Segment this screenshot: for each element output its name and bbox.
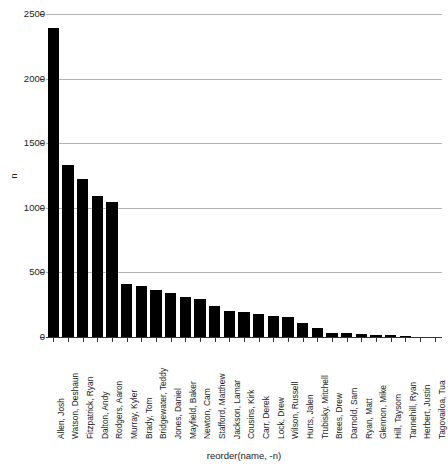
y-tick-mark [40, 14, 44, 15]
x-tick-mark [127, 338, 128, 342]
x-tick-label: Stafford, Matthew [218, 374, 227, 439]
x-axis-title: reorder(name, -n) [46, 450, 442, 461]
x-tick-label: Watson, Deshaun [71, 373, 80, 439]
bar [180, 297, 191, 338]
x-tick-mark [83, 338, 84, 342]
plot-panel [46, 14, 442, 338]
x-tick-label: Jones, Daniel [174, 388, 183, 439]
x-tick-mark [229, 338, 230, 342]
y-tick-mark [40, 337, 44, 338]
x-tick-label: Dalton, Andy [101, 392, 110, 440]
bar [136, 286, 147, 338]
bar [297, 323, 308, 339]
x-tick-label: Hill, Taysom [394, 394, 403, 439]
x-tick-label: Carr, Derek [262, 396, 271, 439]
x-tick-label: Tannehill, Ryan [409, 382, 418, 439]
x-tick-mark [244, 338, 245, 342]
bar [238, 312, 249, 338]
bar-chart: n 05001000150020002500 Allen, JoshWatson… [0, 0, 448, 473]
x-tick-mark [141, 338, 142, 342]
bar [62, 165, 73, 338]
x-tick-mark [97, 338, 98, 342]
bar [77, 179, 88, 338]
x-tick-label: Newton, Cam [203, 388, 212, 439]
x-tick-label: Herbert, Justin [423, 385, 432, 439]
x-tick-label: Allen, Josh [57, 398, 66, 439]
y-tick-mark [40, 208, 44, 209]
x-tick-label: Cousins, Kirk [247, 390, 256, 439]
x-tick-mark [420, 338, 421, 342]
x-tick-label: Wilson, Russell [291, 382, 300, 439]
bar [209, 306, 220, 338]
bar [282, 317, 293, 338]
bar [194, 299, 205, 338]
x-tick-label: Murray, Kyler [130, 390, 139, 439]
x-tick-mark [303, 338, 304, 342]
x-tick-mark [259, 338, 260, 342]
y-tick-mark [40, 272, 44, 273]
x-tick-mark [288, 338, 289, 342]
x-tick-mark [376, 338, 377, 342]
x-tick-mark [391, 338, 392, 342]
bar [150, 290, 161, 338]
x-tick-label: Brees, Drew [335, 393, 344, 439]
bar [48, 28, 59, 338]
x-tick-mark [53, 338, 54, 342]
x-tick-mark [156, 338, 157, 342]
x-tick-mark [405, 338, 406, 342]
x-tick-label: Mayfield, Baker [189, 381, 198, 439]
bar [92, 196, 103, 338]
x-tick-mark [200, 338, 201, 342]
x-tick-label: Lock, Drew [277, 397, 286, 439]
x-tick-mark [332, 338, 333, 342]
bar [106, 202, 117, 338]
x-tick-label: Glennon, Mike [379, 385, 388, 439]
x-axis-labels: Allen, JoshWatson, DeshaunFitzpatrick, R… [46, 343, 442, 443]
x-tick-mark [68, 338, 69, 342]
x-tick-mark [273, 338, 274, 342]
x-tick-mark [361, 338, 362, 342]
bar [268, 316, 279, 338]
y-tick-mark [40, 79, 44, 80]
x-tick-mark [435, 338, 436, 342]
x-tick-label: Trubisky, Mitchell [321, 375, 330, 439]
x-tick-label: Bridgewater, Teddy [159, 368, 168, 439]
x-tick-label: Jackson, Lamar [233, 380, 242, 439]
bar [253, 314, 264, 338]
x-tick-mark [215, 338, 216, 342]
x-tick-mark [317, 338, 318, 342]
y-axis: 05001000150020002500 [0, 0, 45, 473]
bar-series [46, 14, 442, 338]
x-tick-label: Tagovailoa, Tua [438, 380, 447, 439]
x-tick-mark [112, 338, 113, 342]
x-tick-mark [171, 338, 172, 342]
x-tick-mark [347, 338, 348, 342]
bar [121, 284, 132, 338]
x-tick-label: Rodgers, Aaron [115, 381, 124, 439]
bar [224, 311, 235, 338]
y-tick-mark [40, 143, 44, 144]
x-tick-mark [185, 338, 186, 342]
x-tick-label: Darnold, Sam [350, 388, 359, 439]
x-tick-label: Ryan, Matt [365, 399, 374, 440]
bar [165, 293, 176, 338]
x-tick-label: Fitzpatrick, Ryan [86, 377, 95, 439]
x-tick-label: Hurts, Jalen [306, 394, 315, 439]
x-tick-label: Brady, Tom [145, 397, 154, 439]
